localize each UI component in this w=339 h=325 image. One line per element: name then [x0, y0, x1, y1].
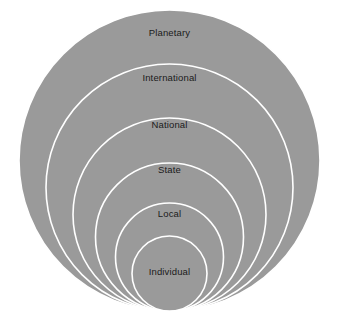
label-planetary: Planetary: [149, 27, 191, 38]
label-individual: Individual: [149, 266, 191, 277]
nested-circles-diagram: PlanetaryInternationalNationalStateLocal…: [0, 0, 339, 325]
label-local: Local: [158, 208, 181, 219]
diagram-canvas: PlanetaryInternationalNationalStateLocal…: [0, 0, 339, 325]
label-state: State: [158, 164, 181, 175]
label-international: International: [142, 72, 196, 83]
label-national: National: [151, 119, 187, 130]
